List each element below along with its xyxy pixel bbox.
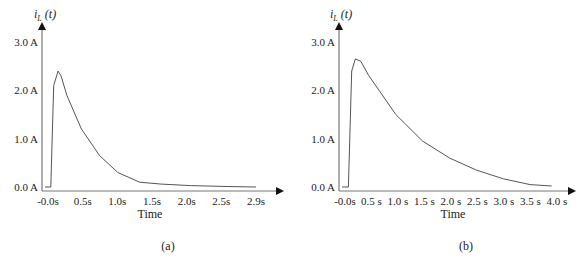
x-arrow-icon [568, 187, 576, 195]
y-tick-label: 1.0 A [14, 133, 38, 145]
chart-b: iL (t) 0.0 A1.0 A2.0 A3.0 A -0.0s0.5 s1.… [311, 7, 576, 253]
xlabel-a: Time [138, 207, 163, 221]
x-tick-label: 3.0 s [494, 195, 515, 207]
x-tick-label: 1.5 s [414, 195, 435, 207]
x-arrow-icon [276, 187, 284, 195]
y-arrow-icon [38, 22, 46, 30]
x-tick-label: 2.5 s [467, 195, 488, 207]
curve-b [342, 59, 552, 187]
xlabel-b: Time [441, 207, 466, 221]
x-tick-label: 2.0 s [441, 195, 462, 207]
x-tick-label: -0.0s [334, 195, 356, 207]
curve-a [45, 71, 256, 187]
x-tick-label: 1.0s [108, 195, 126, 207]
x-tick-label: 0.5s [74, 195, 92, 207]
caption-b: (b) [459, 239, 473, 253]
x-tick-label: 4.0 s [547, 195, 568, 207]
ylabel-b: iL (t) [330, 7, 352, 23]
figure: iL (t) 0.0 A1.0 A2.0 A3.0 A -0.0s0.5s1.0… [0, 0, 587, 260]
caption-a: (a) [161, 239, 174, 253]
x-tick-label: 2.0s [178, 195, 196, 207]
y-tick-label: 0.0 A [311, 181, 335, 193]
y-tick-label: 3.0 A [311, 36, 335, 48]
x-tick-label: 3.5 s [520, 195, 541, 207]
y-tick-label: 3.0 A [14, 36, 38, 48]
ylabel-a: iL (t) [34, 7, 56, 23]
y-tick-label: 2.0 A [311, 84, 335, 96]
y-tick-label: 0.0 A [14, 181, 38, 193]
x-tick-label: 2.5s [212, 195, 230, 207]
x-tick-label: 1.5s [143, 195, 161, 207]
chart-a: iL (t) 0.0 A1.0 A2.0 A3.0 A -0.0s0.5s1.0… [14, 7, 284, 253]
y-tick-label: 2.0 A [14, 84, 38, 96]
y-arrow-icon [335, 22, 343, 30]
x-tick-label: -0.0s [37, 195, 59, 207]
x-tick-label: 1.0 s [388, 195, 409, 207]
y-tick-label: 1.0 A [311, 133, 335, 145]
x-tick-label: 2.9s [247, 195, 265, 207]
x-tick-label: 0.5 s [361, 195, 382, 207]
